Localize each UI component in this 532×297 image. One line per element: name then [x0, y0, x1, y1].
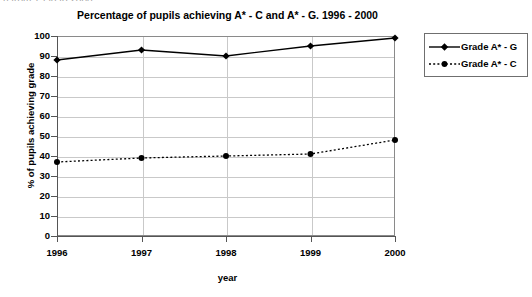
gridline-vertical — [312, 37, 313, 235]
chart-screenshot: n from 1996 to 2000. Percentage of pupil… — [0, 0, 532, 297]
gridline-horizontal — [58, 57, 394, 58]
y-axis-tick-label: 10 — [4, 210, 50, 221]
legend-label: Grade A* - G — [461, 41, 517, 52]
gridline-horizontal — [58, 77, 394, 78]
x-axis-tick — [57, 237, 58, 242]
gridline-horizontal — [58, 157, 394, 158]
gridline-horizontal — [58, 117, 394, 118]
gridline-horizontal — [58, 217, 394, 218]
y-axis-tick — [51, 56, 57, 57]
x-axis-title: year — [0, 272, 455, 283]
x-axis-tick — [311, 237, 312, 242]
x-axis-tick — [395, 237, 396, 242]
gridline-vertical — [227, 37, 228, 235]
legend-item[interactable]: Grade A* - C — [428, 55, 524, 72]
gridline-horizontal — [58, 197, 394, 198]
y-axis-tick — [51, 136, 57, 137]
clipped-header-text: n from 1996 to 2000. — [3, 0, 95, 1]
x-axis-tick-label: 1997 — [131, 247, 152, 258]
y-axis-tick — [51, 36, 57, 37]
x-axis-tick-label: 2000 — [384, 247, 405, 258]
legend-item[interactable]: Grade A* - G — [428, 38, 524, 55]
y-axis-tick — [51, 176, 57, 177]
x-axis-tick-label: 1998 — [215, 247, 236, 258]
x-axis-tick-label: 1996 — [46, 247, 67, 258]
chart-legend: Grade A* - G Grade A* - C — [424, 33, 528, 77]
y-axis-tick — [51, 76, 57, 77]
x-axis-tick-label: 1999 — [300, 247, 321, 258]
y-axis-tick-label: 100 — [4, 30, 50, 41]
gridline-horizontal — [58, 137, 394, 138]
x-axis-tick — [226, 237, 227, 242]
y-axis-line — [57, 36, 58, 237]
legend-key-grade-a-g — [428, 40, 461, 54]
y-axis-tick — [51, 96, 57, 97]
gridline-vertical — [143, 37, 144, 235]
legend-label: Grade A* - C — [461, 58, 517, 69]
gridline-horizontal — [58, 177, 394, 178]
gridline-horizontal — [58, 97, 394, 98]
y-axis-tick-label: 0 — [4, 230, 50, 241]
y-axis-tick — [51, 196, 57, 197]
y-axis-tick — [51, 156, 57, 157]
legend-key-grade-a-c — [428, 57, 461, 71]
x-axis-tick — [142, 237, 143, 242]
y-axis-tick — [51, 216, 57, 217]
chart-title: Percentage of pupils achieving A* - C an… — [0, 9, 455, 21]
plot-area — [57, 36, 395, 236]
y-axis-tick — [51, 116, 57, 117]
y-axis-title: % of pupils achieving grade — [25, 46, 36, 206]
